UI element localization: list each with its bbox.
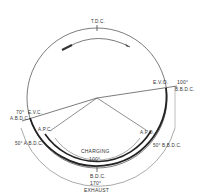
apc-label: A.P.C.	[38, 127, 52, 132]
evo-line	[97, 86, 177, 98]
charging-angle-label: 100°	[89, 156, 100, 162]
evc-angle-label: 70°	[16, 109, 24, 115]
evc-label: E.V.C.	[28, 110, 42, 115]
evo-ref-label: B.B.D.C.	[175, 87, 194, 92]
charging-label: CHARGING	[81, 148, 110, 154]
apo-angle-label: 50° B.B.D.C.	[153, 143, 182, 148]
exhaust-angle-label: 170°	[90, 180, 101, 186]
apo-line	[97, 98, 146, 130]
apc-line	[50, 98, 97, 131]
exhaust-label: EXHAUST	[84, 187, 109, 193]
evo-label: E.V.O.	[153, 79, 168, 85]
apc-angle-label: 50° A.B.D.C.	[15, 141, 43, 146]
apo-label: A.P.O.	[140, 130, 154, 135]
tdc-label: T.D.C.	[91, 19, 105, 24]
rotation-arrow-icon	[62, 39, 130, 51]
valve-timing-diagram: T.D.C. E.V.O. 100° B.B.D.C. 70° A.B.D.C.…	[0, 0, 201, 196]
evc-ref-label: A.B.D.C.	[10, 116, 29, 121]
bdc-label: B.D.C.	[90, 173, 106, 179]
evo-angle-label: 100°	[177, 79, 188, 85]
